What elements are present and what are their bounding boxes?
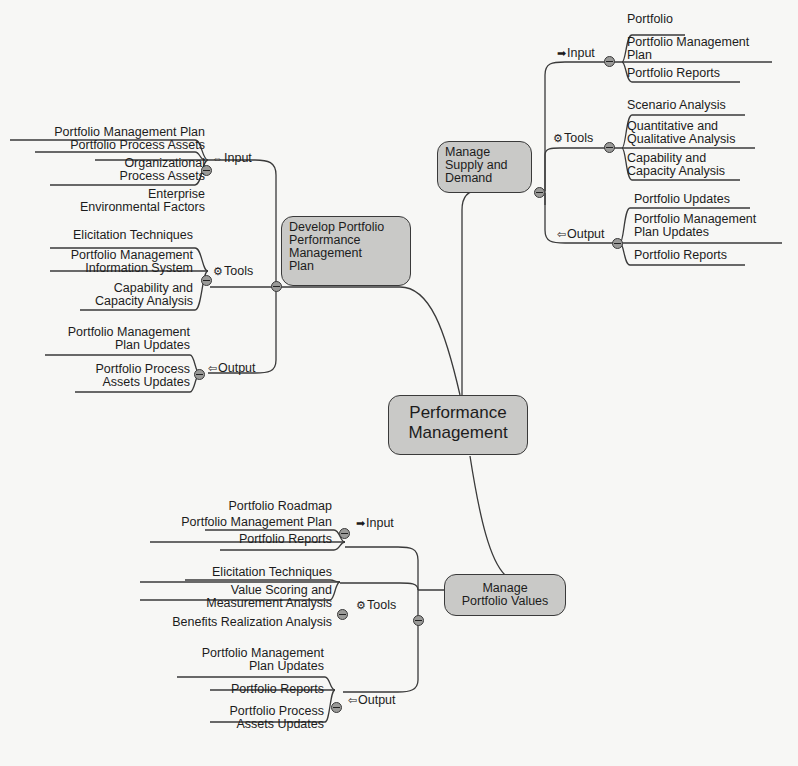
central-node-line2: Management [397, 423, 519, 443]
values-output-toggle[interactable] [331, 702, 342, 713]
develop-input-label[interactable]: ⇔Input [212, 151, 252, 165]
node-manage-supply-and-demand[interactable]: Manage Supply and Demand [437, 141, 532, 193]
supply-tools-label[interactable]: ⚙Tools [553, 131, 593, 145]
supply-output-item[interactable]: Portfolio Reports [634, 249, 727, 262]
develop-input-item: Process Assets [120, 170, 205, 183]
supply-output-toggle[interactable] [612, 238, 623, 249]
values-input-label[interactable]: ➡Input [356, 516, 394, 530]
values-input-item[interactable]: Portfolio Reports [239, 533, 332, 546]
develop-tools-label[interactable]: ⚙Tools [213, 264, 253, 278]
develop-output-toggle[interactable] [194, 369, 205, 380]
gear-icon: ⚙ [356, 599, 366, 611]
develop-tools-item[interactable]: Elicitation Techniques [73, 229, 193, 242]
right-arrow-icon: ➡ [557, 47, 566, 59]
node-manage-portfolio-values[interactable]: Manage Portfolio Values [444, 574, 566, 616]
double-arrow-icon: ⇔ [212, 152, 223, 164]
develop-tools-item: Capacity Analysis [95, 295, 193, 308]
supply-tools-item: Capacity Analysis [627, 165, 725, 178]
supply-tools-item: Qualitative Analysis [627, 133, 735, 146]
left-arrow-icon: ⇦ [208, 362, 217, 374]
values-output-item[interactable]: Portfolio Reports [231, 683, 324, 696]
develop-input-item[interactable]: Portfolio Process Assets [70, 139, 205, 152]
supply-output-label[interactable]: ⇦Output [557, 227, 605, 241]
develop-collapse-toggle[interactable] [271, 281, 282, 292]
supply-input-item[interactable]: Portfolio [627, 13, 673, 26]
supply-input-item[interactable]: Portfolio Reports [627, 67, 720, 80]
values-tools-toggle[interactable] [337, 609, 348, 620]
values-input-item[interactable]: Portfolio Management Plan [181, 516, 332, 529]
supply-input-item: Plan [627, 49, 652, 62]
supply-output-item: Plan Updates [634, 226, 709, 239]
values-input-item[interactable]: Portfolio Roadmap [228, 500, 332, 513]
right-arrow-icon: ➡ [356, 517, 365, 529]
develop-input-item: Environmental Factors [80, 201, 205, 214]
develop-tools-toggle[interactable] [201, 275, 212, 286]
values-tools-item[interactable]: Benefits Realization Analysis [172, 616, 332, 629]
left-arrow-icon: ⇦ [557, 228, 566, 240]
values-tools-item: Measurement Analysis [206, 597, 332, 610]
central-node-line1: Performance [397, 403, 519, 423]
gear-icon: ⚙ [213, 265, 223, 277]
values-title-line: Portfolio Values [452, 595, 558, 608]
left-arrow-icon: ⇦ [348, 694, 357, 706]
values-tools-label[interactable]: ⚙Tools [356, 598, 396, 612]
supply-collapse-toggle[interactable] [534, 187, 545, 198]
values-tools-item[interactable]: Elicitation Techniques [212, 566, 332, 579]
values-output-item: Assets Updates [236, 718, 324, 731]
values-collapse-toggle[interactable] [413, 615, 424, 626]
values-output-item: Plan Updates [249, 660, 324, 673]
supply-tools-toggle[interactable] [604, 142, 615, 153]
central-node-performance-management[interactable]: Performance Management [388, 395, 528, 455]
develop-output-item: Assets Updates [102, 376, 190, 389]
develop-title-line: Plan [289, 260, 403, 273]
develop-output-item: Plan Updates [115, 339, 190, 352]
supply-input-label[interactable]: ➡Input [557, 46, 595, 60]
values-output-label[interactable]: ⇦Output [348, 693, 396, 707]
develop-output-label[interactable]: ⇦Output [208, 361, 256, 375]
values-input-toggle[interactable] [339, 528, 350, 539]
gear-icon: ⚙ [553, 132, 563, 144]
develop-tools-item: Information System [85, 262, 193, 275]
node-develop-portfolio-performance-management-plan[interactable]: Develop Portfolio Performance Management… [281, 216, 411, 286]
supply-output-item[interactable]: Portfolio Updates [634, 193, 730, 206]
supply-input-toggle[interactable] [604, 56, 615, 67]
supply-tools-item[interactable]: Scenario Analysis [627, 99, 726, 112]
supply-title-line: Demand [445, 172, 524, 185]
